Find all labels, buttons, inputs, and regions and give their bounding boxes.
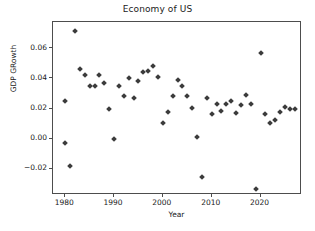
data-point — [170, 94, 176, 100]
plot-area — [52, 21, 301, 194]
data-point — [160, 120, 166, 126]
data-point — [111, 136, 117, 142]
data-point — [277, 109, 283, 115]
data-point — [67, 163, 73, 169]
data-point — [106, 106, 112, 112]
y-tick-label: 0.00 — [7, 133, 47, 142]
data-point — [204, 95, 210, 101]
y-tick-mark — [49, 47, 52, 48]
data-point — [214, 101, 220, 107]
x-tick-label: 2000 — [142, 198, 182, 207]
data-point — [92, 83, 98, 89]
data-point — [189, 105, 195, 111]
data-point — [292, 106, 298, 112]
x-tick-label: 2020 — [240, 198, 280, 207]
data-point — [136, 79, 142, 85]
data-point — [131, 95, 137, 101]
data-point — [116, 83, 122, 89]
y-tick-mark — [49, 77, 52, 78]
x-tick-mark — [113, 194, 114, 197]
data-point — [233, 110, 239, 116]
data-point — [77, 67, 83, 73]
y-tick-mark — [49, 138, 52, 139]
chart-title: Economy of US — [0, 4, 315, 14]
data-point — [199, 175, 205, 181]
data-point — [180, 83, 186, 89]
data-point — [175, 77, 181, 83]
data-point — [101, 80, 107, 86]
x-tick-mark — [64, 194, 65, 197]
data-point — [263, 111, 269, 117]
data-point — [62, 140, 68, 146]
data-point — [243, 92, 249, 98]
y-axis-label: GDP GRowth — [9, 25, 18, 113]
data-point — [223, 101, 229, 107]
data-point — [82, 73, 88, 79]
x-tick-mark — [211, 194, 212, 197]
chart-figure: Economy of US 19801990200020102020 −0.02… — [0, 0, 315, 231]
data-point — [209, 111, 215, 117]
y-tick-label: −0.02 — [7, 163, 47, 172]
data-point — [155, 74, 161, 80]
x-tick-label: 1980 — [44, 198, 84, 207]
data-point — [184, 94, 190, 100]
data-point — [272, 117, 278, 123]
x-axis-label: Year — [52, 210, 301, 219]
y-tick-mark — [49, 168, 52, 169]
data-point — [97, 72, 103, 78]
data-point — [228, 98, 234, 104]
data-point — [219, 108, 225, 114]
y-tick-mark — [49, 108, 52, 109]
scatter-points-layer — [53, 22, 300, 193]
data-point — [165, 110, 171, 116]
data-point — [253, 186, 259, 192]
data-point — [238, 102, 244, 108]
data-point — [62, 98, 68, 104]
data-point — [194, 134, 200, 140]
data-point — [248, 101, 254, 107]
x-tick-label: 2010 — [191, 198, 231, 207]
x-tick-mark — [162, 194, 163, 197]
x-tick-mark — [260, 194, 261, 197]
data-point — [145, 68, 151, 74]
data-point — [72, 28, 78, 34]
data-point — [258, 50, 264, 56]
data-point — [121, 94, 127, 100]
data-point — [150, 63, 156, 69]
x-tick-label: 1990 — [93, 198, 133, 207]
data-point — [126, 75, 132, 81]
